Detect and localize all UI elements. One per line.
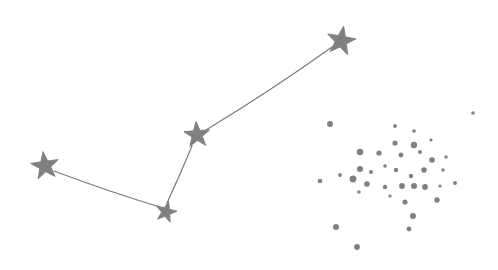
cluster-star-dot: [383, 164, 387, 168]
cluster-star-dot: [402, 199, 407, 204]
open-cluster-layer: [318, 111, 475, 250]
cluster-star-dot: [429, 138, 432, 141]
cluster-star-dot: [376, 150, 381, 155]
cluster-star-dot: [357, 149, 363, 155]
cluster-star-dot: [392, 140, 397, 145]
cluster-star-dot: [438, 184, 441, 187]
cluster-star-dot: [407, 227, 412, 232]
star-center-icon: [184, 122, 210, 147]
cluster-star-dot: [471, 111, 475, 115]
cluster-star-dot: [383, 185, 387, 189]
cluster-star-dot: [369, 170, 373, 174]
cluster-star-dot: [357, 190, 361, 194]
cluster-star-dot: [421, 167, 427, 173]
named-star-layer: [31, 26, 356, 222]
cluster-star-dot: [410, 213, 416, 219]
cluster-star-dot: [350, 176, 357, 183]
cluster-star-dot: [327, 121, 333, 127]
cluster-star-dot: [422, 184, 428, 190]
cluster-star-dot: [412, 129, 416, 133]
cluster-star-dot: [434, 197, 439, 202]
link-west-south: [54, 171, 160, 207]
cluster-star-dot: [393, 124, 397, 128]
cluster-star-dot: [453, 181, 457, 185]
cluster-star-dot: [318, 179, 323, 184]
cluster-star-dot: [409, 174, 413, 178]
cluster-star-dot: [418, 150, 422, 154]
cluster-star-dot: [388, 194, 391, 197]
cluster-star-dot: [394, 168, 398, 172]
link-center-northeast: [206, 47, 332, 130]
cluster-star-dot: [441, 168, 444, 171]
cluster-star-dot: [333, 224, 339, 230]
star-west-icon: [31, 152, 58, 179]
cluster-star-dot: [399, 153, 404, 158]
cluster-star-dot: [429, 157, 435, 163]
star-northeast-icon: [328, 26, 356, 54]
cluster-star-dot: [357, 166, 363, 172]
star-south-icon: [157, 201, 177, 222]
cluster-star-dot: [444, 155, 447, 158]
constellation-line-layer: [54, 47, 332, 207]
constellation-canvas: [0, 0, 498, 270]
cluster-star-dot: [338, 173, 342, 177]
cluster-star-dot: [411, 183, 417, 189]
cluster-star-dot: [399, 183, 405, 189]
constellation-diagram: [0, 0, 498, 270]
cluster-star-dot: [411, 142, 417, 148]
cluster-star-dot: [354, 244, 360, 250]
cluster-star-dot: [364, 181, 370, 187]
link-south-center: [167, 146, 192, 203]
